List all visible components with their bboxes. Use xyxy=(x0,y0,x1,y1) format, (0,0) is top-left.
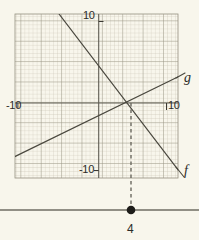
graph-canvas xyxy=(0,0,199,240)
curve-label-f: f xyxy=(184,163,188,179)
figure-container: 10 -10 10 -10 g f 4 xyxy=(0,0,199,240)
x-axis-right-label: 10 xyxy=(168,99,180,111)
x-axis-left-label: -10 xyxy=(6,99,21,111)
number-line xyxy=(0,206,199,215)
curve-label-g: g xyxy=(184,70,191,86)
y-axis-bottom-label: -10 xyxy=(79,163,94,175)
grid-major xyxy=(15,14,178,178)
y-axis-top-label: 10 xyxy=(83,9,95,21)
number-line-point xyxy=(127,206,136,215)
number-line-point-label: 4 xyxy=(127,222,133,236)
